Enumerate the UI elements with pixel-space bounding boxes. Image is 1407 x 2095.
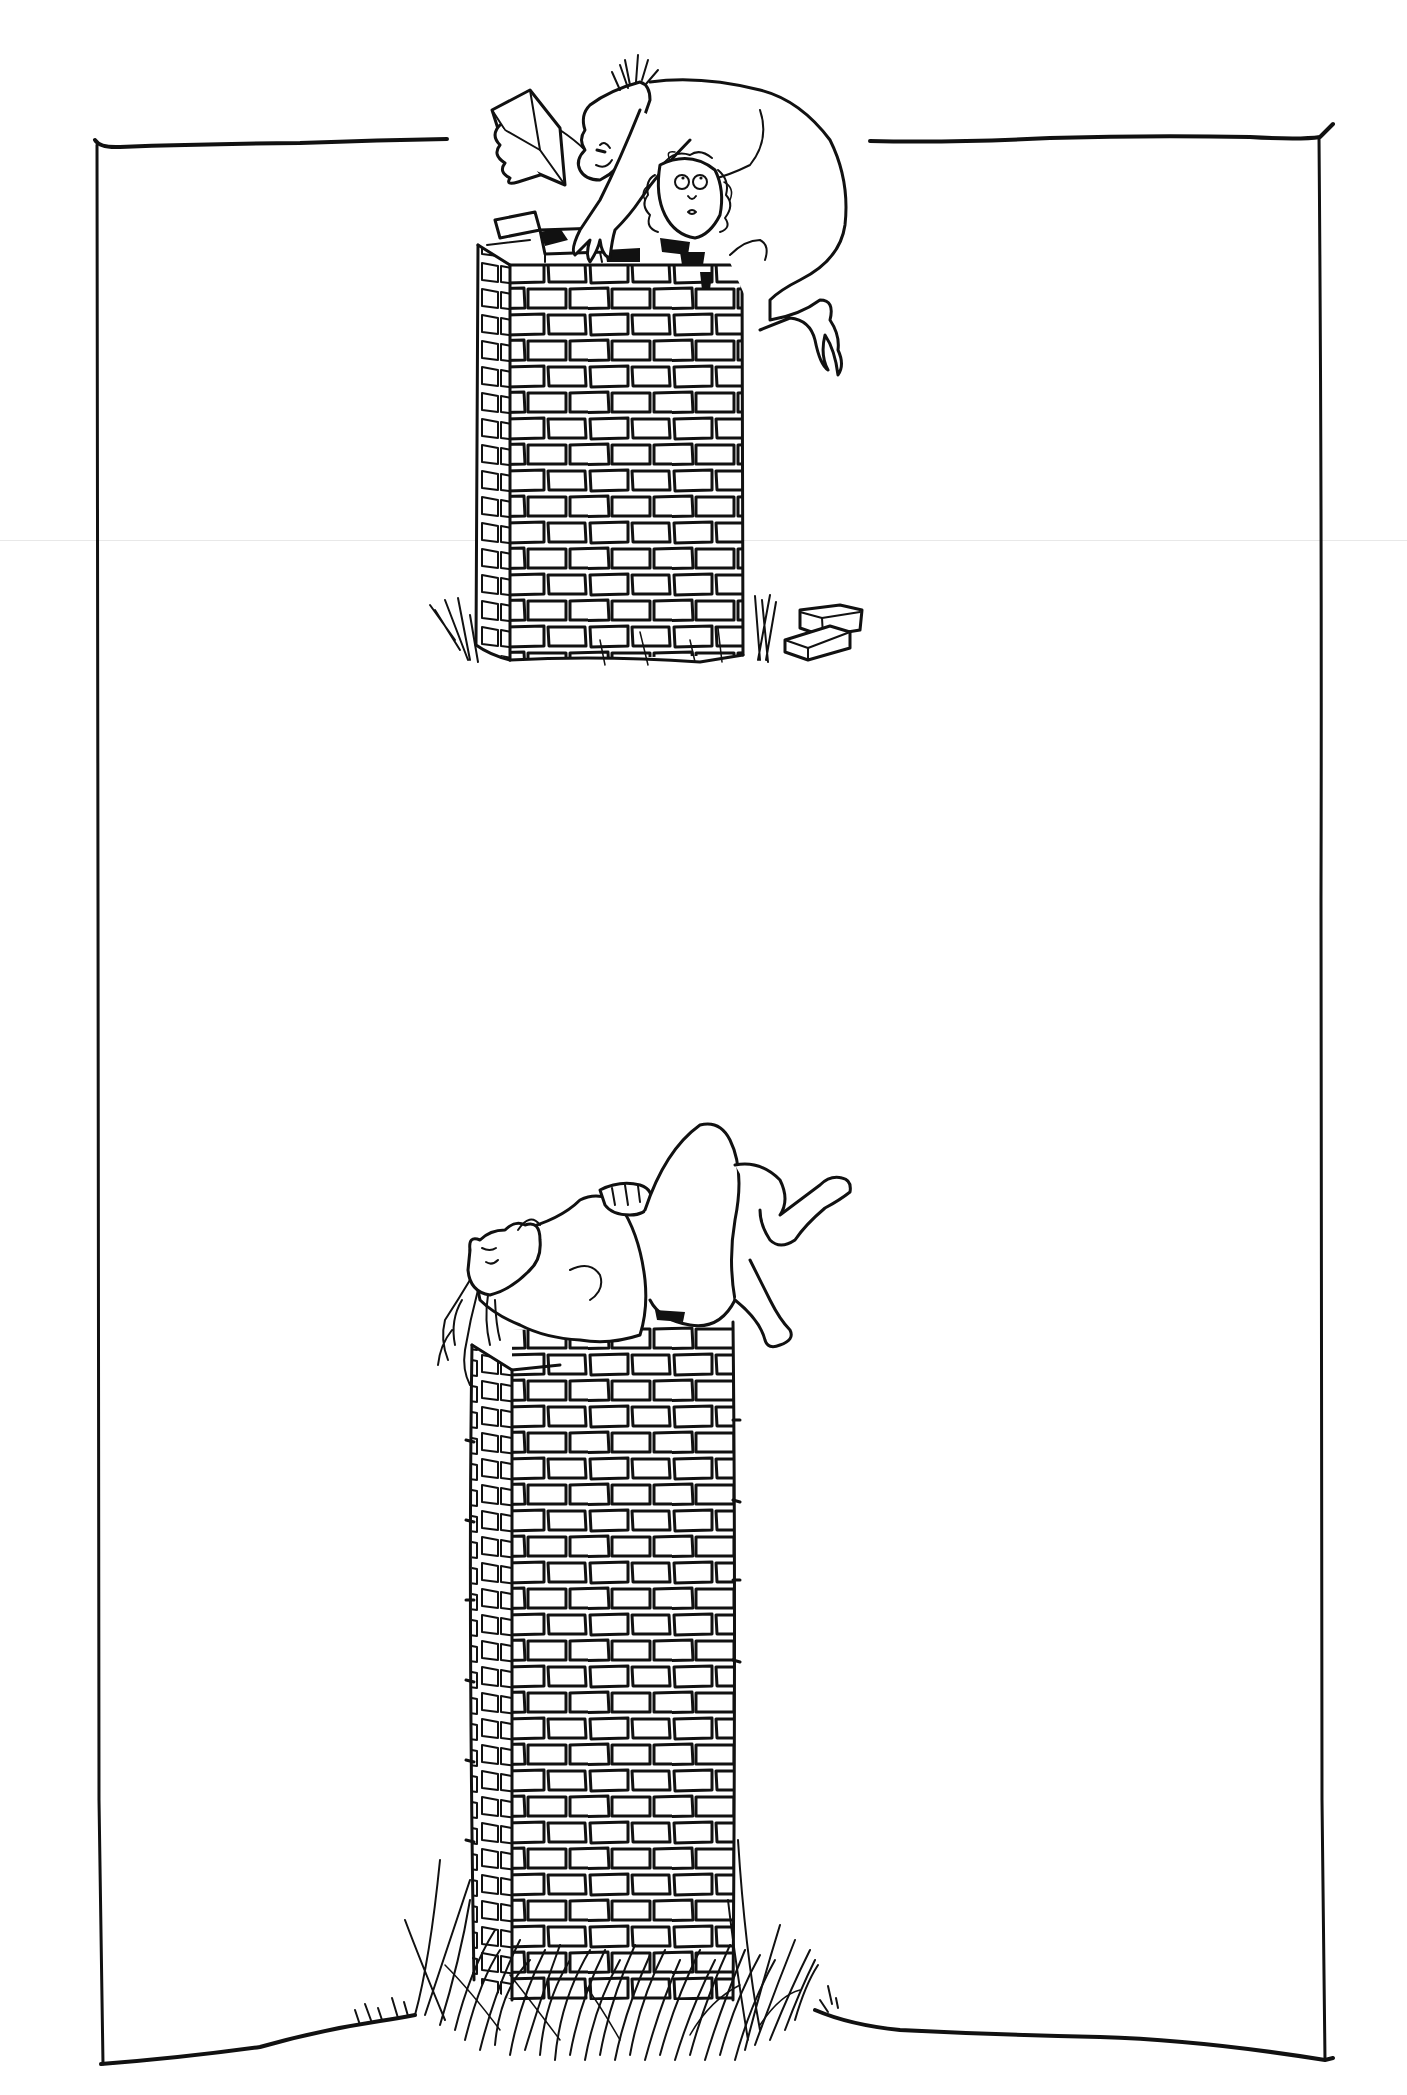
bottom-scene — [405, 1124, 850, 2060]
top-chimney — [476, 212, 743, 662]
loose-bricks — [785, 605, 862, 660]
bottom-chimney — [466, 1322, 740, 2000]
illustration-canvas — [0, 0, 1407, 2095]
top-scene — [430, 55, 862, 665]
